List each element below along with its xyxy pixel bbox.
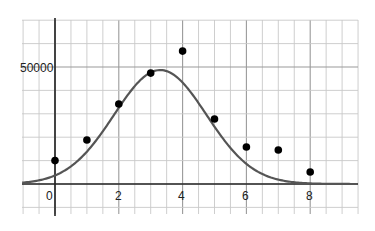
data-point [51,157,59,165]
data-point [211,115,219,123]
x-tick-label-2: 2 [115,189,122,203]
data-point [306,168,314,176]
fitted-curve [22,70,357,184]
x-tick-label-0: 0 [46,189,53,203]
grid-lines [22,20,358,214]
data-point [83,136,91,144]
x-tick-label-8: 8 [306,189,313,203]
data-point [147,69,155,77]
y-tick-label-50000: 50000 [20,61,54,75]
data-point [243,143,251,151]
axes [22,18,358,216]
chart: 50000 0 2 4 6 8 [0,0,375,231]
data-point [179,47,187,55]
x-tick-label-4: 4 [178,189,185,203]
data-point [115,100,123,108]
x-tick-label-6: 6 [242,189,249,203]
data-point [275,146,283,154]
